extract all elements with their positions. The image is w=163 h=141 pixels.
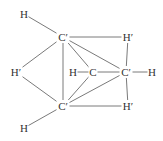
- atom-label: C′: [58, 31, 68, 43]
- atom-label: H: [69, 66, 77, 78]
- atom-h3: H: [148, 66, 157, 78]
- atom-hp2: H′: [10, 66, 23, 78]
- atom-h4: H: [20, 122, 29, 134]
- atom-label: H: [148, 66, 156, 78]
- atom-label: H′: [123, 31, 133, 43]
- atom-h2: H: [69, 66, 78, 78]
- atom-c3: C′: [120, 66, 133, 78]
- atom-c1: C′: [57, 31, 70, 43]
- atom-label: C: [89, 66, 96, 78]
- atom-c4: C′: [57, 100, 70, 112]
- atom-label: C′: [58, 100, 68, 112]
- atoms-group: HC′H′H′HCC′HC′H′H: [10, 8, 157, 134]
- atom-c2: C: [89, 66, 98, 78]
- bond-hp2-c4: [16, 72, 63, 106]
- atom-label: H: [20, 8, 28, 20]
- atom-hp3: H′: [122, 100, 135, 112]
- bond-c1-hp2: [16, 37, 63, 72]
- atom-label: H′: [11, 66, 21, 78]
- molecule-diagram: HC′H′H′HCC′HC′H′H: [0, 0, 163, 141]
- atom-h1: H: [20, 8, 29, 20]
- atom-hp1: H′: [122, 31, 135, 43]
- atom-label: C′: [121, 66, 131, 78]
- atom-label: H′: [123, 100, 133, 112]
- atom-label: H: [20, 122, 28, 134]
